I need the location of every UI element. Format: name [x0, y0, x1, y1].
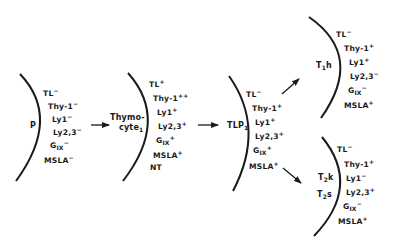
- cell-thymocyte1-label-line1: Thymo-: [110, 114, 145, 122]
- marker-tl: TL+: [149, 79, 165, 89]
- marker-thy1: Thy-1+: [344, 43, 374, 53]
- marker-ly23: Ly2,3−: [53, 127, 82, 137]
- marker-ly1: Ly1+: [157, 107, 177, 117]
- marker-ly23: Ly2,3+: [158, 121, 187, 131]
- cell-p-membrane: [16, 74, 40, 181]
- marker-ly1: Ly1−: [52, 114, 72, 124]
- marker-nt: NT: [150, 164, 162, 172]
- marker-thy1: Thy-1+: [252, 103, 282, 113]
- marker-tl: TL−: [337, 144, 353, 154]
- cell-t2k-label: T2k: [318, 174, 334, 183]
- arrow-tlp1-to-t1h: [282, 79, 299, 94]
- marker-msla: MSLA+: [344, 100, 374, 110]
- marker-ly1: Ly1−: [346, 173, 366, 183]
- marker-gix: GIX+: [156, 135, 175, 146]
- arrow-tlp1-to-t2: [283, 168, 301, 183]
- marker-ly1: Ly1+: [255, 117, 275, 127]
- marker-gix: GIX+: [253, 145, 272, 156]
- cell-thymocyte1-label-line2: cyte1: [119, 124, 143, 133]
- marker-tl: TL−: [336, 29, 352, 39]
- cell-tlp1-label: TLP1: [227, 122, 248, 131]
- cell-p-label: P: [30, 122, 36, 130]
- marker-msla: MSLA+: [249, 161, 279, 171]
- cell-t2s-label: T2s: [317, 191, 332, 200]
- marker-ly23: Ly2,3+: [255, 131, 284, 141]
- cell-t1h-label: T1h: [316, 62, 332, 71]
- marker-gix: GIX−: [343, 201, 362, 212]
- marker-tl: TL−: [43, 88, 59, 98]
- marker-thy1: Thy-1−: [48, 101, 78, 111]
- marker-gix: GIX−: [50, 140, 69, 151]
- marker-ly23: Ly2,3−: [350, 71, 379, 81]
- marker-ly1: Ly1+: [349, 57, 369, 67]
- marker-msla: MSLA+: [153, 150, 183, 160]
- marker-gix: GIX−: [348, 85, 367, 96]
- marker-ly23: Ly2,3+: [346, 187, 375, 197]
- marker-msla: MSLA−: [44, 155, 74, 165]
- marker-tl: TL−: [246, 89, 262, 99]
- marker-msla: MSLA+: [338, 216, 368, 226]
- marker-thy1: Thy-1++: [153, 93, 188, 103]
- marker-thy1: Thy-1+: [344, 159, 374, 169]
